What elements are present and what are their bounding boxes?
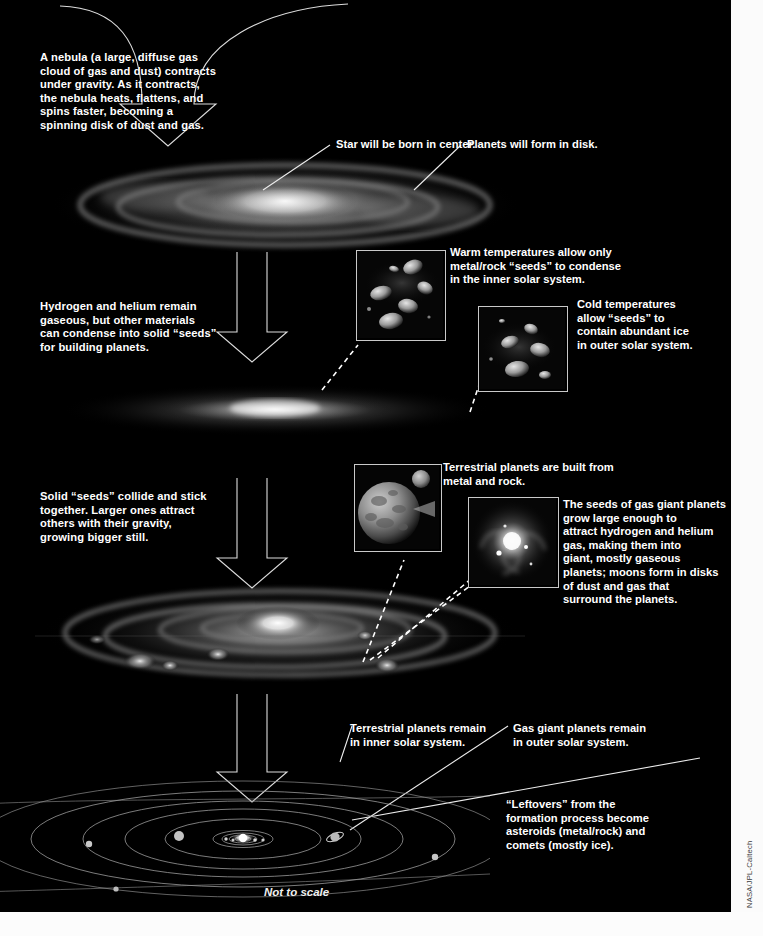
inset-icy-seeds (478, 306, 568, 392)
bottom-margin-panel (0, 912, 763, 936)
callout-warm-temperatures: Warm temperatures allow only metal/rock … (450, 246, 660, 287)
callout-leftovers: “Leftovers” from the formation process b… (506, 798, 686, 852)
callout-gas-giant-remain: Gas giant planets remain in outer solar … (513, 722, 683, 749)
right-margin-panel (731, 0, 763, 912)
callout-terrestrial-built: Terrestrial planets are built from metal… (443, 461, 643, 488)
callout-terrestrial-remain: Terrestrial planets remain in inner sola… (350, 722, 510, 749)
step-1-text: A nebula (a large, diffuse gas cloud of … (40, 51, 290, 133)
step-2-text: Hydrogen and helium remain gaseous, but … (40, 300, 260, 354)
solar-system (0, 770, 490, 910)
figure-page: A nebula (a large, diffuse gas cloud of … (0, 0, 763, 936)
step-3-text: Solid “seeds” collide and stick together… (40, 490, 260, 544)
callout-gas-giant-seeds: The seeds of gas giant planets grow larg… (563, 498, 731, 607)
callout-cold-temperatures: Cold temperatures allow “seeds” to conta… (577, 298, 727, 352)
inset-rocky-seeds (356, 250, 446, 341)
inset-gas-giant-disk (468, 497, 559, 588)
inset-terrestrial-planet (354, 464, 442, 552)
image-credit: NASA/JPL-Caltech (745, 841, 754, 908)
callout-planets-disk: Planets will form in disk. (467, 138, 598, 152)
scale-note: Not to scale (264, 886, 329, 898)
callout-star-center: Star will be born in center. (336, 138, 475, 152)
diagram-canvas: A nebula (a large, diffuse gas cloud of … (0, 0, 731, 912)
